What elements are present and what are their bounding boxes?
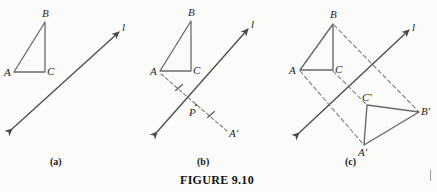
panel-b-triangle: [160, 21, 191, 71]
panel-b-graphics: [157, 21, 248, 132]
panel-c-label-c: C: [335, 64, 342, 75]
panel-c-graphics: [299, 24, 419, 145]
panel-c-label-line-l: l: [412, 22, 415, 33]
panel-b-label-p: P: [189, 107, 196, 118]
panel-c-caption: (c): [345, 157, 356, 167]
panel-a-label-line-l: l: [122, 22, 125, 33]
figure-9-10: A B C l (a) A B C l P A' (b) A B C l A' …: [0, 0, 437, 192]
panel-b-perpendicular-dashed: [161, 74, 227, 131]
panel-c-label-c-prime: C': [362, 92, 372, 103]
panel-c-triangle-abc-image: [364, 105, 419, 145]
panel-c-label-a: A: [289, 65, 296, 76]
panel-c-label-a-prime: A': [358, 147, 367, 158]
panel-b-label-a: A: [150, 66, 157, 77]
panel-a-label-c: C: [47, 66, 54, 77]
panel-c-label-b: B: [330, 9, 337, 20]
panel-a-label-a: A: [4, 67, 11, 78]
panel-b-line-l: [157, 29, 248, 132]
panel-b-label-line-l: l: [251, 19, 254, 30]
panel-c-dashed-b-to-bprime: [334, 25, 419, 112]
panel-a-line-l: [12, 32, 119, 129]
panel-c-triangle-abc: [300, 24, 333, 70]
panel-b-label-b: B: [188, 7, 195, 18]
panel-a-caption: (a): [50, 157, 62, 167]
figure-title: FIGURE 9.10: [180, 174, 254, 186]
panel-a-label-b: B: [42, 8, 49, 19]
panel-b-label-a-prime: A': [229, 128, 238, 139]
panel-b-label-c: C: [193, 65, 200, 76]
panel-c-label-b-prime: B': [421, 106, 430, 117]
panel-a-triangle: [14, 22, 45, 72]
panel-a-graphics: [12, 22, 119, 129]
panel-b-caption: (b): [197, 157, 209, 167]
panel-c-dashed-a-to-aprime: [300, 71, 364, 145]
page-edge-mark: [430, 170, 431, 181]
